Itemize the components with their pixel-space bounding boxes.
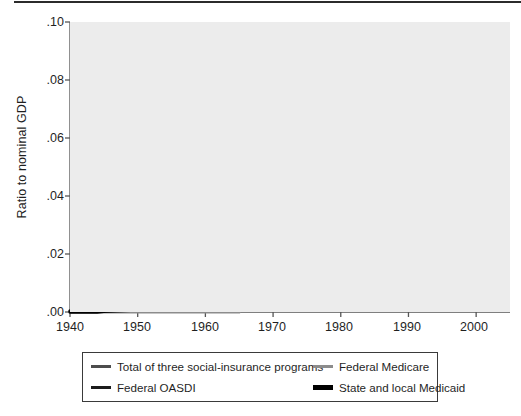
y-tick-label: .06 (30, 131, 64, 145)
x-tick-label: 1960 (191, 320, 219, 334)
chart-legend: Total of three social-insurance programs… (82, 352, 438, 402)
x-tick-label: 2000 (460, 320, 488, 334)
x-tick-label: 1970 (258, 320, 286, 334)
y-tick-label: .02 (30, 247, 64, 261)
legend-item-total: Total of three social-insurance programs (91, 360, 313, 373)
y-tick-label: .04 (30, 189, 64, 203)
legend-label-medicaid: State and local Medicaid (339, 381, 465, 394)
plot-area (70, 22, 510, 312)
legend-label-medicare: Federal Medicare (339, 360, 429, 373)
y-tick-label: .00 (30, 305, 64, 319)
legend-item-medicaid: State and local Medicaid (313, 381, 447, 394)
y-tick-label: .08 (30, 73, 64, 87)
chart-figure: Ratio to nominal GDP .10 .08 .06 .04 .02… (0, 0, 521, 416)
legend-swatch-total (91, 365, 111, 368)
legend-label-oasdi: Federal OASDI (117, 381, 196, 394)
legend-swatch-medicaid (313, 385, 333, 389)
x-tick-label: 1950 (123, 320, 151, 334)
figure-top-rule (14, 1, 521, 3)
x-tick-label: 1990 (393, 320, 421, 334)
legend-swatch-oasdi (91, 386, 111, 389)
y-tick-label: .10 (30, 15, 64, 29)
x-tick-label: 1940 (56, 320, 84, 334)
legend-swatch-medicare (313, 365, 333, 368)
legend-label-total: Total of three social-insurance programs (117, 360, 323, 373)
legend-item-medicare: Federal Medicare (313, 360, 447, 373)
x-tick-label: 1980 (325, 320, 353, 334)
y-axis-tick-labels: .10 .08 .06 .04 .02 .00 (26, 0, 64, 416)
legend-item-oasdi: Federal OASDI (91, 381, 313, 394)
